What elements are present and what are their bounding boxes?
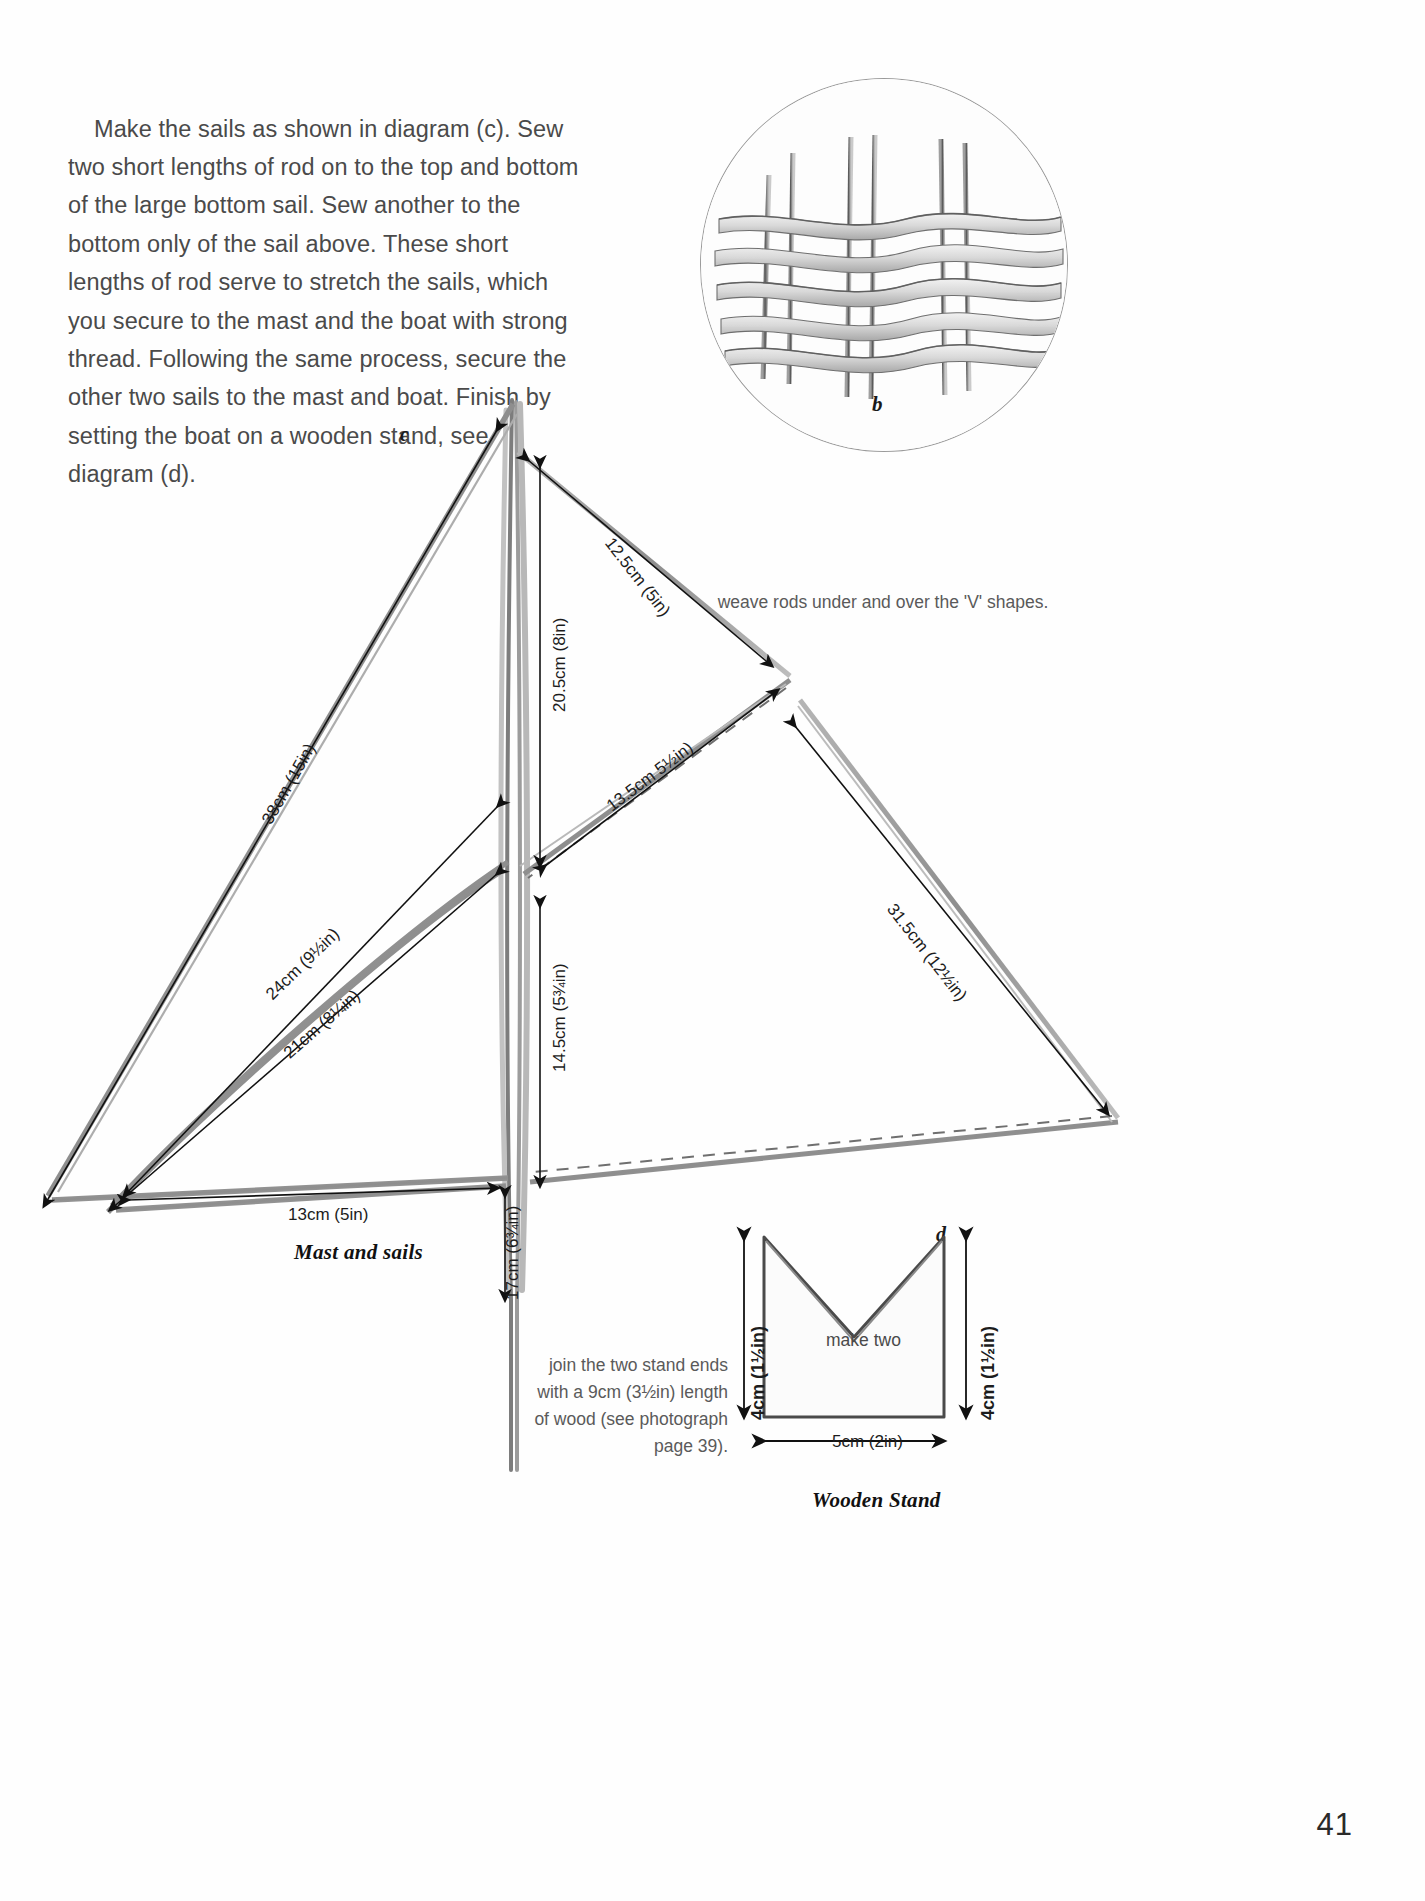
sail-right-lower bbox=[530, 700, 1118, 1182]
mast bbox=[501, 400, 527, 1470]
page-number: 41 bbox=[1317, 1807, 1353, 1843]
dim-mast-lower: 14.5cm (5¾in) bbox=[550, 963, 570, 1072]
dim-foot: 13cm (5in) bbox=[288, 1205, 368, 1225]
stand-shape bbox=[764, 1237, 944, 1417]
sail-diagram-title: Mast and sails bbox=[294, 1240, 423, 1265]
stand-note: join the two stand ends with a 9cm (3½in… bbox=[520, 1352, 728, 1460]
stand-height-label-right: 4cm (1½in) bbox=[978, 1326, 999, 1420]
stand-make-two-label: make two bbox=[826, 1330, 901, 1351]
dim-mast-base: 17cm (6¾in) bbox=[503, 1206, 523, 1300]
stitch-line-lower bbox=[534, 1116, 1112, 1172]
mast-and-sails-diagram bbox=[0, 0, 1425, 1500]
dim-mast-upper: 20.5cm (8in) bbox=[550, 618, 570, 712]
page-canvas: Make the sails as shown in diagram (c). … bbox=[0, 0, 1425, 1901]
stand-diagram-title: Wooden Stand bbox=[812, 1488, 941, 1513]
stand-width-label: 5cm (2in) bbox=[832, 1432, 903, 1452]
dimension-lines bbox=[44, 430, 1108, 1300]
stand-height-label-left: 4cm (1½in) bbox=[748, 1326, 769, 1420]
wooden-stand-diagram bbox=[720, 1225, 1050, 1525]
